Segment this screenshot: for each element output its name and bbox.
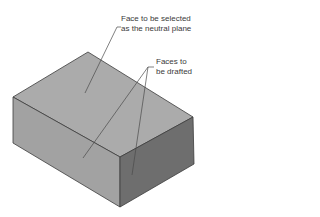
callout-faces-to-draft: Faces to be drafted xyxy=(156,57,192,77)
callout-neutral-plane-line-2: as the neutral plane xyxy=(121,24,191,34)
callout-faces-to-draft-line-1: Faces to xyxy=(156,57,192,67)
callout-neutral-plane: Face to be selected as the neutral plane xyxy=(121,14,191,34)
callout-faces-to-draft-line-2: be drafted xyxy=(156,67,192,77)
callout-neutral-plane-line-1: Face to be selected xyxy=(121,14,191,24)
